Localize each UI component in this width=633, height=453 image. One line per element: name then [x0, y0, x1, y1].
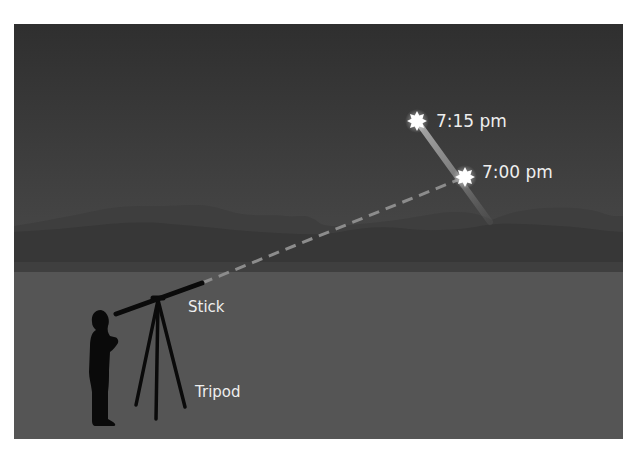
label-7-15-pm: 7:15 pm	[436, 111, 507, 131]
observation-diagram: 7:15 pm 7:00 pm Stick Tripod	[0, 0, 633, 453]
star-7-15-icon	[405, 109, 429, 133]
label-tripod: Tripod	[194, 383, 241, 401]
star-7-00-icon	[453, 165, 477, 189]
label-stick: Stick	[188, 298, 225, 316]
label-7-00-pm: 7:00 pm	[482, 162, 553, 182]
